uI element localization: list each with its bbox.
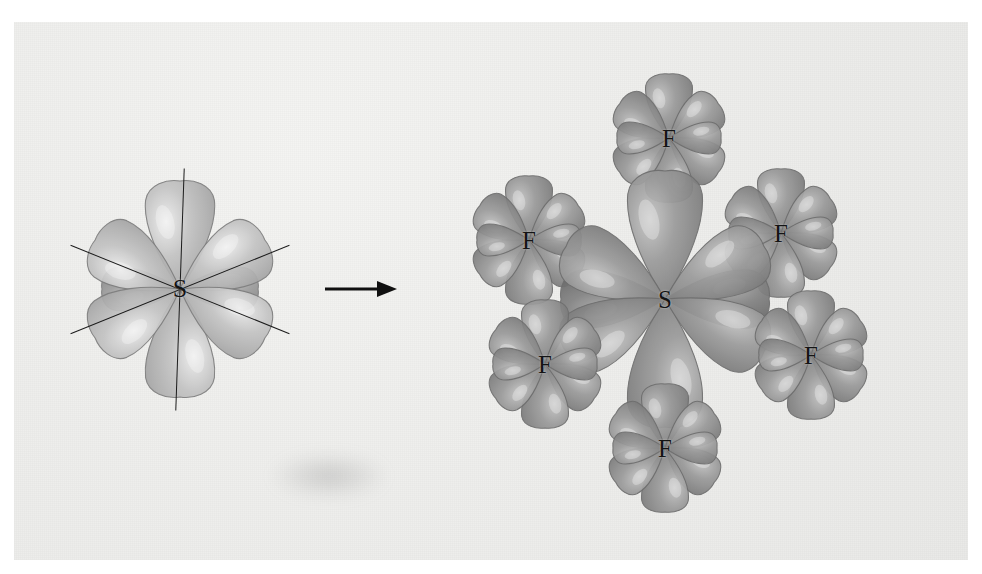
fluorine-upper-left-label: F [522,228,536,253]
arrow-shaft [325,288,381,291]
arrow-head [377,281,397,297]
fluorine-bottom-label: F [658,436,672,461]
atom-label-sulfur: S [173,276,187,302]
fluorine-lower-right-label: F [804,343,818,368]
fluorine-lower-left-label: F [538,352,552,377]
reaction-arrow [325,279,397,299]
atom-label-sulfur-center: S [658,287,672,312]
fluorine-upper-right-label: F [774,221,788,246]
fluorine-top-label: F [662,126,676,151]
figure-canvas: S FFFFFFS [14,22,968,560]
